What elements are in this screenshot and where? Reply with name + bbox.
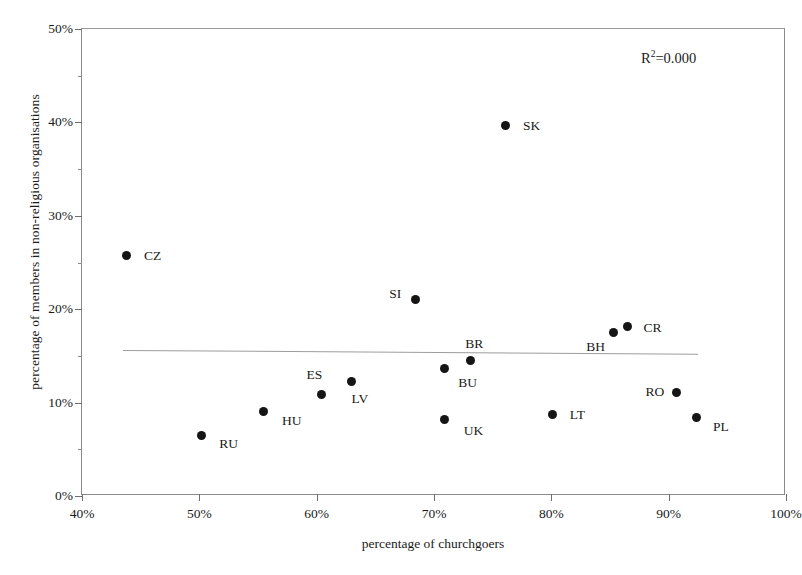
x-axis-tick-label: 70% (399, 506, 469, 522)
y-axis-tick (75, 122, 82, 123)
y-axis-tick-label: 30% (13, 208, 73, 224)
x-axis-tick-label: 50% (164, 506, 234, 522)
data-point-label: PL (713, 419, 729, 435)
x-axis-tick (786, 494, 787, 501)
y-axis-tick-label: 0% (13, 488, 73, 504)
r-squared-base: R (641, 50, 651, 66)
data-point (347, 377, 356, 386)
x-axis-tick-label: 60% (282, 506, 352, 522)
y-axis-minor-tick (78, 169, 82, 170)
x-axis-tick (434, 494, 435, 501)
data-point-label: HU (282, 413, 302, 429)
scatter-chart-figure: percentage of members in non-religious o… (0, 0, 802, 575)
data-point (440, 415, 449, 424)
y-axis-tick (75, 403, 82, 404)
trendline (123, 350, 698, 355)
data-point (317, 390, 326, 399)
x-axis-tick (551, 494, 552, 501)
data-point (623, 322, 632, 331)
data-point-label: CR (644, 320, 662, 336)
y-axis-tick-label: 20% (13, 301, 73, 317)
x-axis-tick-label: 100% (751, 506, 802, 522)
data-point (609, 328, 618, 337)
x-axis-title: percentage of churchgoers (81, 536, 785, 552)
data-point-label: RU (219, 436, 238, 452)
data-point-label: BU (458, 375, 477, 391)
y-axis-minor-tick (78, 76, 82, 77)
y-axis-tick-label: 50% (13, 21, 73, 37)
r-squared-annotation: R2=0.000 (641, 49, 696, 67)
y-axis-minor-tick (78, 449, 82, 450)
data-point (197, 431, 206, 440)
data-point-label: LT (570, 407, 585, 423)
data-point-label: BR (465, 336, 483, 352)
y-axis-tick (75, 29, 82, 30)
y-axis-minor-tick (78, 356, 82, 357)
data-point-label: ES (306, 367, 322, 383)
y-axis-tick-label: 10% (13, 395, 73, 411)
r-squared-value: =0.000 (655, 50, 696, 66)
x-axis-tick (82, 494, 83, 501)
data-point (122, 251, 131, 260)
plot-area: 0%10%20%30%40%50% 40%50%60%70%80%90%100%… (81, 28, 785, 495)
x-axis-tick (199, 494, 200, 501)
x-axis-tick (317, 494, 318, 501)
y-axis-tick (75, 496, 82, 497)
data-point-label: SK (523, 118, 540, 134)
y-axis-tick-label: 40% (13, 114, 73, 130)
x-axis-tick (669, 494, 670, 501)
data-point-label: CZ (144, 248, 161, 264)
data-point-label: UK (464, 423, 484, 439)
data-point (672, 388, 681, 397)
data-point (440, 364, 449, 373)
data-point-label: RO (645, 384, 664, 400)
data-point (466, 356, 475, 365)
x-axis-tick-label: 90% (634, 506, 704, 522)
data-point (411, 295, 420, 304)
x-axis-tick-label: 80% (516, 506, 586, 522)
data-point (259, 407, 268, 416)
y-axis-minor-tick (78, 263, 82, 264)
x-axis-tick-label: 40% (47, 506, 117, 522)
y-axis-tick (75, 309, 82, 310)
data-point (501, 121, 510, 130)
data-point-label: LV (351, 391, 368, 407)
data-point (548, 410, 557, 419)
y-axis-tick (75, 216, 82, 217)
data-point-label: SI (389, 286, 401, 302)
data-point (692, 413, 701, 422)
